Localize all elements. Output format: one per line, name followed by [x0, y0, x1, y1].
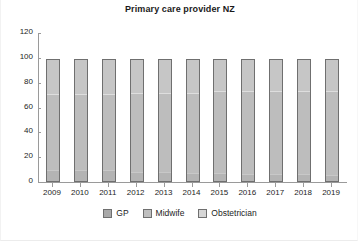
y-axis-tick-label: 0 — [29, 176, 33, 185]
y-axis-tick-label: 120 — [20, 27, 33, 36]
y-axis-tick-label: 20 — [24, 151, 33, 160]
bar-segment-obstetrician-2018 — [298, 60, 310, 91]
legend-swatch-icon — [198, 209, 207, 218]
x-axis-tick-mark — [136, 183, 137, 187]
bar-2011 — [102, 59, 116, 182]
bar-segment-gp-2018 — [298, 175, 310, 181]
x-axis-tick-label: 2019 — [311, 188, 351, 197]
legend-item-gp[interactable]: GP — [103, 208, 128, 218]
legend-item-obstetrician[interactable]: Obstetrician — [198, 208, 256, 218]
x-axis-tick-mark — [331, 183, 332, 187]
bar-2018 — [297, 59, 311, 182]
bar-2013 — [158, 59, 172, 182]
bar-segment-gp-2012 — [131, 173, 143, 181]
x-axis-tick-mark — [164, 183, 165, 187]
bar-2016 — [241, 59, 255, 182]
bar-segment-gp-2010 — [75, 171, 87, 181]
bar-segment-midwife-2016 — [242, 91, 254, 175]
bar-segment-midwife-2012 — [131, 93, 143, 173]
y-axis: 020406080100120 — [1, 33, 38, 182]
bar-2015 — [213, 59, 227, 182]
legend-swatch-icon — [143, 209, 152, 218]
bar-segment-gp-2016 — [242, 175, 254, 181]
x-axis-tick-mark — [52, 183, 53, 187]
legend-item-midwife[interactable]: Midwife — [143, 208, 185, 218]
bar-segment-obstetrician-2009 — [47, 60, 59, 94]
bar-segment-obstetrician-2011 — [103, 60, 115, 94]
bar-segment-midwife-2011 — [103, 94, 115, 172]
legend-swatch-icon — [103, 209, 112, 218]
bar-segment-gp-2017 — [270, 175, 282, 181]
x-axis-tick-mark — [80, 183, 81, 187]
bar-segment-midwife-2017 — [270, 91, 282, 175]
bar-segment-obstetrician-2013 — [159, 60, 171, 92]
bar-segment-midwife-2009 — [47, 94, 59, 172]
bar-segment-obstetrician-2019 — [326, 60, 338, 91]
bar-segment-obstetrician-2010 — [75, 60, 87, 94]
bar-segment-gp-2013 — [159, 173, 171, 181]
y-axis-tick-label: 100 — [20, 52, 33, 61]
x-axis: 2009201020112012201320142015201620172018… — [38, 183, 347, 203]
y-axis-tick-label: 40 — [24, 126, 33, 135]
bar-2012 — [130, 59, 144, 182]
bar-2009 — [46, 59, 60, 182]
legend-label: GP — [116, 208, 128, 218]
x-axis-tick-mark — [108, 183, 109, 187]
bar-2014 — [186, 59, 200, 182]
bar-segment-midwife-2014 — [187, 93, 199, 174]
bar-segment-obstetrician-2017 — [270, 60, 282, 91]
bar-2017 — [269, 59, 283, 182]
chart-figure: Primary care provider NZ 020406080100120… — [0, 0, 358, 241]
x-axis-tick-mark — [275, 183, 276, 187]
bar-segment-midwife-2015 — [214, 91, 226, 173]
x-axis-tick-mark — [303, 183, 304, 187]
x-axis-tick-mark — [219, 183, 220, 187]
chart-title: Primary care provider NZ — [1, 4, 358, 14]
y-axis-tick-label: 80 — [24, 77, 33, 86]
bar-segment-gp-2009 — [47, 171, 59, 181]
bar-segment-gp-2015 — [214, 174, 226, 181]
plot-area — [39, 33, 346, 182]
bar-segment-midwife-2010 — [75, 94, 87, 172]
bar-2019 — [325, 59, 339, 182]
bar-segment-obstetrician-2015 — [214, 60, 226, 91]
bar-segment-midwife-2018 — [298, 91, 310, 175]
bar-segment-gp-2014 — [187, 174, 199, 181]
y-axis-tick-label: 60 — [24, 102, 33, 111]
x-axis-tick-mark — [247, 183, 248, 187]
bar-segment-midwife-2019 — [326, 91, 338, 176]
chart-legend: GPMidwifeObstetrician — [1, 208, 358, 218]
bar-segment-midwife-2013 — [159, 93, 171, 173]
bar-segment-gp-2011 — [103, 171, 115, 181]
legend-label: Midwife — [156, 208, 185, 218]
bar-segment-obstetrician-2012 — [131, 60, 143, 92]
bar-segment-obstetrician-2014 — [187, 60, 199, 92]
legend-label: Obstetrician — [211, 208, 256, 218]
bar-segment-gp-2019 — [326, 176, 338, 181]
bar-2010 — [74, 59, 88, 182]
x-axis-tick-mark — [192, 183, 193, 187]
bar-segment-obstetrician-2016 — [242, 60, 254, 91]
